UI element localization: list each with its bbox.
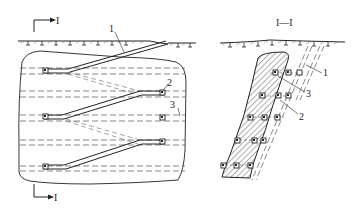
section-marker-bottom: I — [34, 184, 57, 203]
section-marker-top-label: I — [56, 15, 59, 26]
section-callout-2: 2 — [280, 100, 304, 122]
section-marker-bottom-label: I — [54, 192, 57, 203]
mining-diagram: I — [0, 0, 362, 209]
callout-1: 1 — [109, 23, 124, 52]
ground-surface — [18, 41, 196, 47]
svg-text:3: 3 — [170, 99, 175, 110]
svg-text:3: 3 — [306, 88, 311, 99]
svg-text:1: 1 — [323, 67, 328, 78]
planned-ramps — [66, 72, 140, 144]
section-view: I—I — [220, 17, 345, 180]
svg-text:2: 2 — [167, 77, 172, 88]
plan-view: I — [18, 15, 196, 203]
section-title: I—I — [276, 17, 293, 28]
svg-text:2: 2 — [299, 111, 304, 122]
callout-3: 3 — [170, 99, 180, 116]
section-marker-top: I — [34, 15, 59, 32]
callout-2: 2 — [162, 77, 172, 92]
section-ground-surface — [220, 40, 345, 47]
ramp-3 — [44, 140, 164, 169]
svg-text:1: 1 — [109, 23, 114, 34]
section-callout-1: 1 — [306, 65, 328, 78]
